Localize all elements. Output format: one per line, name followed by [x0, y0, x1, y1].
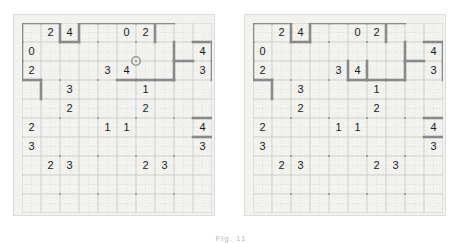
clue-cell[interactable]: 2 — [22, 61, 41, 80]
clue-cell[interactable]: 3 — [60, 80, 79, 99]
clue-cell[interactable]: 0 — [22, 42, 41, 61]
clue-cell[interactable]: 2 — [272, 156, 291, 175]
clue-cell[interactable]: 4 — [348, 61, 367, 80]
clue-cell[interactable]: 3 — [22, 137, 41, 156]
clue-cell[interactable]: 3 — [60, 156, 79, 175]
clue-cell[interactable]: 1 — [367, 80, 386, 99]
clue-cell[interactable]: 3 — [155, 156, 174, 175]
clue-cell[interactable]: 4 — [424, 118, 443, 137]
clue-cell[interactable]: 1 — [329, 118, 348, 137]
clue-cell[interactable]: 3 — [424, 61, 443, 80]
clue-cell[interactable]: 2 — [41, 156, 60, 175]
clue-cell[interactable]: 3 — [253, 137, 272, 156]
clue-cell[interactable]: 2 — [367, 99, 386, 118]
grid-left[interactable]: 240204234331222114332323 — [22, 23, 212, 213]
clue-cell[interactable]: 2 — [60, 99, 79, 118]
figure-container: 240204234331222114332323 240204234331222… — [0, 0, 462, 243]
clue-cell[interactable]: 4 — [193, 118, 212, 137]
clue-cell[interactable]: 1 — [98, 118, 117, 137]
clue-cell[interactable]: 1 — [136, 80, 155, 99]
clue-cell[interactable]: 4 — [424, 42, 443, 61]
clue-cell[interactable]: 3 — [98, 61, 117, 80]
clue-cell[interactable]: 3 — [193, 61, 212, 80]
clue-cell[interactable]: 1 — [117, 118, 136, 137]
clue-cell[interactable]: 2 — [253, 118, 272, 137]
clue-cell[interactable]: 3 — [291, 156, 310, 175]
clue-cell[interactable]: 1 — [348, 118, 367, 137]
clue-cell[interactable]: 2 — [367, 23, 386, 42]
clue-cell[interactable]: 3 — [291, 80, 310, 99]
clue-cell[interactable]: 2 — [136, 23, 155, 42]
clue-cell[interactable]: 3 — [386, 156, 405, 175]
grid-right[interactable]: 240204234331222114332323 — [253, 23, 443, 213]
clue-cell[interactable]: 2 — [41, 23, 60, 42]
clue-cell[interactable]: 2 — [136, 156, 155, 175]
clue-cell[interactable]: 0 — [117, 23, 136, 42]
clue-cell[interactable]: 2 — [367, 156, 386, 175]
clue-cell[interactable]: 3 — [329, 61, 348, 80]
clue-cell[interactable]: 2 — [22, 118, 41, 137]
clue-cell[interactable]: 4 — [291, 23, 310, 42]
figure-caption: Fig. 11 — [0, 234, 462, 243]
clue-cell[interactable]: 4 — [117, 61, 136, 80]
clue-cell[interactable]: 2 — [253, 61, 272, 80]
clue-cell[interactable]: 2 — [136, 99, 155, 118]
clue-cell[interactable]: 4 — [193, 42, 212, 61]
puzzle-board-right[interactable]: 240204234331222114332323 — [244, 14, 446, 216]
clue-cell[interactable]: 0 — [348, 23, 367, 42]
clue-cell[interactable]: 2 — [291, 99, 310, 118]
clue-cell[interactable]: 0 — [253, 42, 272, 61]
clue-cell[interactable]: 4 — [60, 23, 79, 42]
clue-cell[interactable]: 2 — [272, 23, 291, 42]
puzzle-board-left[interactable]: 240204234331222114332323 — [13, 14, 215, 216]
clue-cell[interactable]: 3 — [193, 137, 212, 156]
clue-cell[interactable]: 3 — [424, 137, 443, 156]
